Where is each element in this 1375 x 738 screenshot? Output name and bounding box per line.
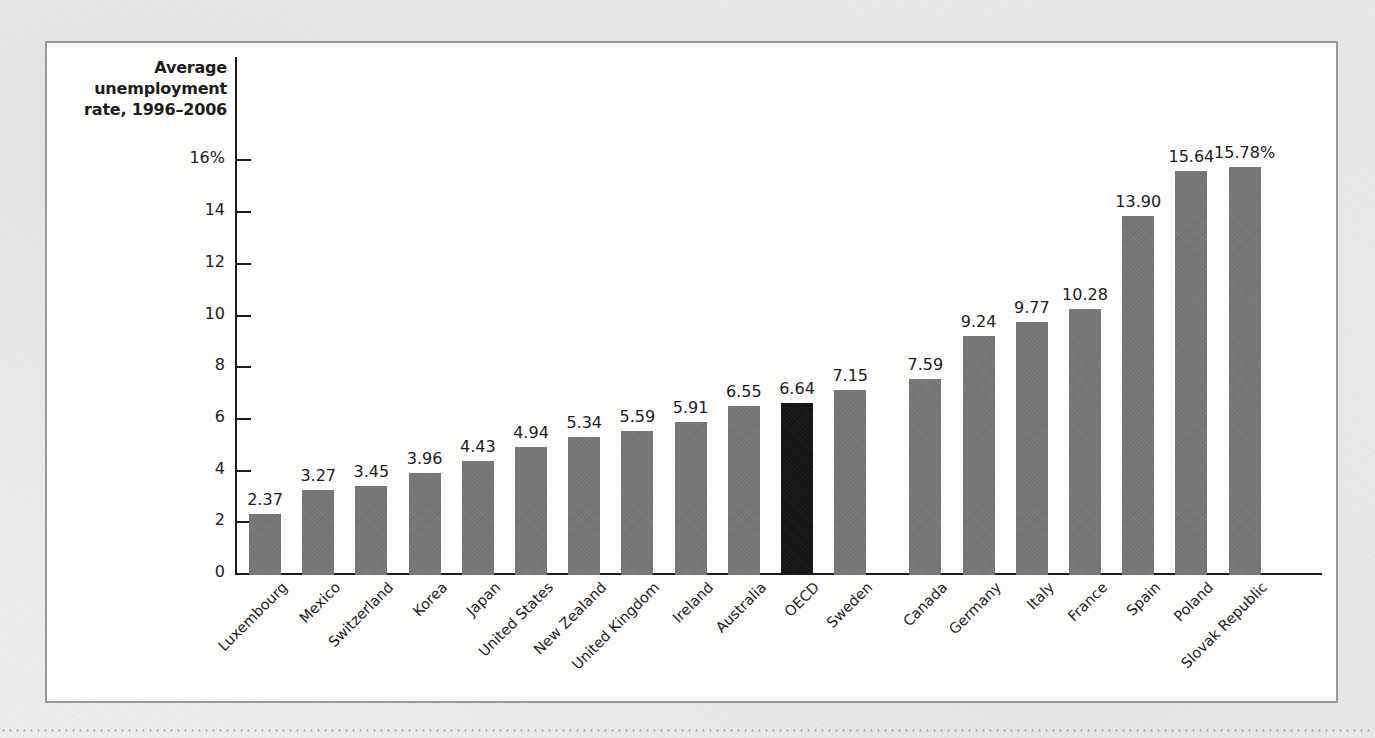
x-axis-category-label: France — [1065, 579, 1110, 624]
y-axis-tick-label: 14 — [205, 200, 225, 219]
figure-frame: Average unemployment rate, 1996–2006 024… — [45, 41, 1338, 703]
bar-group: 5.34 — [568, 45, 600, 575]
bar — [1122, 216, 1154, 575]
bar-group: 7.59 — [909, 45, 941, 575]
bar — [1069, 309, 1101, 575]
x-axis-category-label: Italy — [1024, 579, 1058, 613]
y-axis-tick-label: 2 — [215, 510, 225, 529]
bar — [728, 406, 760, 575]
bar-chart-plot: Average unemployment rate, 1996–2006 024… — [47, 43, 1336, 701]
bar — [568, 437, 600, 575]
bar-group: 9.24 — [963, 45, 995, 575]
y-axis-tick-label: 4 — [215, 459, 225, 478]
bar-group: 7.15 — [834, 45, 866, 575]
bar-group: 15.64 — [1175, 45, 1207, 575]
bar — [355, 486, 387, 575]
bar — [302, 490, 334, 575]
x-axis-category-label: Ireland — [669, 579, 716, 626]
y-axis-title: Average unemployment rate, 1996–2006 — [57, 57, 227, 120]
x-axis-category-label: Canada — [900, 579, 950, 629]
x-axis-category-label: Korea — [410, 579, 450, 619]
bar-group: 3.96 — [409, 45, 441, 575]
bar-group: 4.43 — [462, 45, 494, 575]
bar-group: 2.37 — [249, 45, 281, 575]
bar — [621, 431, 653, 576]
y-axis-tick-label: 16% — [189, 148, 225, 167]
y-axis-tick-label: 12 — [205, 252, 225, 271]
bar — [1016, 322, 1048, 575]
bar — [249, 514, 281, 575]
bar-value-label: 7.15 — [818, 366, 882, 385]
page-bottom-dotted-rule — [0, 729, 1375, 732]
bar-group: 9.77 — [1016, 45, 1048, 575]
y-axis-tick-label: 8 — [215, 355, 225, 374]
bar — [409, 473, 441, 575]
bar-value-label: 10.28 — [1053, 285, 1117, 304]
bar-value-label: 13.90 — [1106, 192, 1170, 211]
bar — [909, 379, 941, 575]
x-axis-category-label: OECD — [781, 579, 822, 620]
bar — [963, 336, 995, 575]
bar-value-label: 7.59 — [893, 355, 957, 374]
bar — [515, 447, 547, 575]
bar-group: 3.45 — [355, 45, 387, 575]
bar-value-label: 5.91 — [659, 398, 723, 417]
x-axis-category-label: Japan — [463, 579, 503, 619]
bar — [675, 422, 707, 575]
bar-series: 2.373.273.453.964.434.945.345.595.916.55… — [235, 43, 1325, 575]
bar-group: 6.55 — [728, 45, 760, 575]
bar-value-label: 15.78% — [1213, 143, 1277, 162]
x-axis-category-label: Poland — [1171, 579, 1217, 625]
bar-group: 13.90 — [1122, 45, 1154, 575]
bar-highlight — [781, 403, 813, 575]
bar-group: 15.78% — [1229, 45, 1261, 575]
bar — [1229, 167, 1261, 575]
y-axis-tick-label: 6 — [215, 407, 225, 426]
x-axis-category-label: Australia — [712, 579, 769, 636]
bar-group: 10.28 — [1069, 45, 1101, 575]
x-axis-category-label: Sweden — [824, 579, 876, 631]
y-axis-tick-label: 0 — [215, 562, 225, 581]
bar-group: 4.94 — [515, 45, 547, 575]
bar — [834, 390, 866, 575]
bar-group: 5.59 — [621, 45, 653, 575]
bar — [462, 461, 494, 576]
x-axis-category-label: Mexico — [296, 579, 343, 626]
x-axis-category-label: Luxembourg — [215, 579, 290, 654]
y-axis-tick-label: 10 — [205, 304, 225, 323]
x-axis-category-label: Spain — [1124, 579, 1164, 619]
bar-group: 6.64 — [781, 45, 813, 575]
bar — [1175, 171, 1207, 575]
bar-group: 3.27 — [302, 45, 334, 575]
bar-group: 5.91 — [675, 45, 707, 575]
bar-value-label: 2.37 — [233, 490, 297, 509]
x-axis-category-label: Germany — [945, 579, 1003, 637]
